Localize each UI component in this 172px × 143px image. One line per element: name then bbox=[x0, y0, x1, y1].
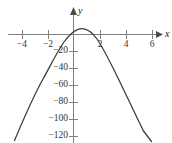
y-tick-label--120: −120 bbox=[35, 131, 68, 141]
x-tick-label--4: −4 bbox=[17, 40, 27, 50]
parabola-plot bbox=[0, 0, 172, 143]
y-tick-label--60: −60 bbox=[40, 80, 68, 90]
y-tick-label--40: −40 bbox=[40, 63, 68, 73]
y-tick-label--80: −80 bbox=[40, 97, 68, 107]
x-axis-label: x bbox=[165, 29, 169, 39]
x-axis-arrow-icon bbox=[156, 31, 163, 38]
graph-figure: −4 −2 2 4 6 −20 −40 −60 −80 −100 −120 x … bbox=[0, 0, 172, 143]
y-axis-label: y bbox=[78, 6, 82, 16]
x-tick-label-4: 4 bbox=[124, 40, 129, 50]
parabola-curve bbox=[15, 29, 152, 142]
y-axis-arrow-icon bbox=[70, 7, 77, 15]
x-tick-label-2: 2 bbox=[98, 40, 103, 50]
x-tick-label-6: 6 bbox=[150, 40, 155, 50]
y-tick-label--20: −20 bbox=[40, 46, 68, 56]
y-tick-label--100: −100 bbox=[35, 114, 68, 124]
